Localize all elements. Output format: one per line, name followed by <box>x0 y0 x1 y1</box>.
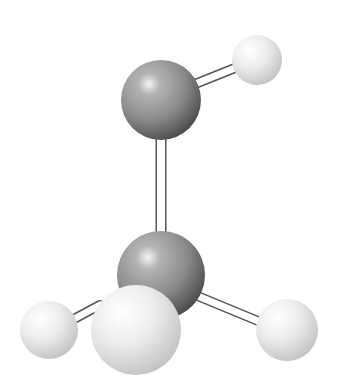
bond-c-h-right <box>200 297 258 321</box>
hydrogen-atom-hydroxyl <box>232 35 282 85</box>
molecule-canvas <box>0 0 347 381</box>
hydrogen-atom-front <box>91 285 181 375</box>
oxygen-atom <box>121 60 201 140</box>
hydrogen-atom-left <box>20 301 78 359</box>
molecule-diagram: methanol <box>0 0 347 381</box>
bond-o-h <box>190 66 240 86</box>
hydrogen-atom-right <box>256 299 318 361</box>
